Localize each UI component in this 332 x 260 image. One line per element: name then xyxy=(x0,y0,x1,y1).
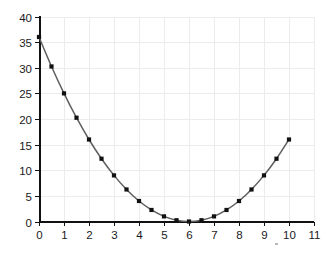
data-point xyxy=(87,137,91,141)
x-axis-tick-label: 9 xyxy=(261,229,267,241)
data-point xyxy=(137,199,141,203)
chart-container: 0510152025303540 01234567891011 xyxy=(0,0,332,260)
y-axis-tick-label: 10 xyxy=(19,165,32,177)
x-axis-tick-labels: 01234567891011 xyxy=(36,229,320,241)
x-axis-tick-label: 0 xyxy=(36,229,42,241)
data-point xyxy=(237,199,241,203)
data-point xyxy=(262,173,266,177)
data-point xyxy=(37,35,41,39)
y-axis-tick-label: 20 xyxy=(19,114,32,126)
data-point xyxy=(199,218,203,222)
y-axis-tick-label: 0 xyxy=(26,217,32,229)
x-axis-tick-label: 1 xyxy=(61,229,67,241)
x-axis-tick-label: 8 xyxy=(236,229,242,241)
x-axis-tick-label: 3 xyxy=(111,229,117,241)
y-axis-ticks xyxy=(35,18,39,223)
y-axis-tick-label: 5 xyxy=(26,191,32,203)
y-axis-tick-label: 40 xyxy=(19,12,32,24)
x-axis-tick-label: 7 xyxy=(211,229,217,241)
data-point xyxy=(49,64,53,68)
x-axis-tick-label: 5 xyxy=(161,229,167,241)
y-axis-tick-labels: 0510152025303540 xyxy=(19,12,32,229)
speck-artifact xyxy=(275,243,278,245)
data-point xyxy=(249,187,253,191)
x-axis-tick-label: 2 xyxy=(86,229,92,241)
data-point xyxy=(124,187,128,191)
data-point xyxy=(224,208,228,212)
data-point xyxy=(187,219,191,223)
data-point xyxy=(74,116,78,120)
data-point xyxy=(62,91,66,95)
y-axis-tick-label: 15 xyxy=(19,140,32,152)
data-point xyxy=(162,214,166,218)
y-axis-tick-label: 30 xyxy=(19,63,32,75)
data-point xyxy=(149,208,153,212)
data-point xyxy=(174,218,178,222)
data-point xyxy=(287,137,291,141)
data-point xyxy=(212,214,216,218)
data-point xyxy=(274,157,278,161)
horizontal-gridlines xyxy=(39,18,314,197)
x-axis-tick-label: 11 xyxy=(309,229,321,241)
parabola-plot: 0510152025303540 01234567891011 xyxy=(0,0,332,260)
x-axis-tick-label: 4 xyxy=(136,229,143,241)
data-point xyxy=(112,173,116,177)
data-point xyxy=(99,157,103,161)
x-axis-tick-label: 10 xyxy=(283,229,296,241)
x-axis-tick-label: 6 xyxy=(186,229,192,241)
y-axis-tick-label: 25 xyxy=(19,88,32,100)
y-axis-tick-label: 35 xyxy=(19,37,32,49)
